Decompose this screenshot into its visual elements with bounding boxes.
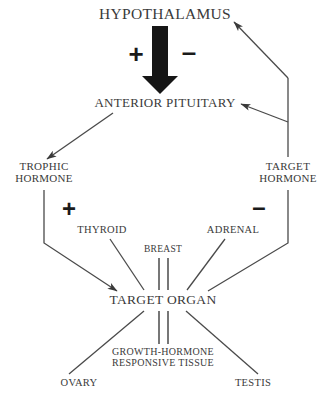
connector-target-organ-to-target-hormone bbox=[208, 190, 288, 291]
minus-sign-target-hormone-inhibition: – bbox=[252, 195, 265, 219]
node-label-adrenal: ADRENAL bbox=[207, 224, 259, 235]
diagram-canvas bbox=[0, 0, 325, 399]
node-label-anterior-pituitary: ANTERIOR PITUITARY bbox=[94, 96, 235, 110]
endocrine-feedback-diagram: HYPOTHALAMUS ANTERIOR PITUITARY TROPHIC … bbox=[0, 0, 325, 399]
node-label-target-hormone: TARGET HORMONE bbox=[259, 161, 317, 185]
connector-trophic-to-target-organ bbox=[44, 190, 117, 291]
connector-breast-to-target-organ bbox=[159, 258, 168, 290]
connector-target-hormone-to-hypothalamus bbox=[234, 22, 288, 78]
minus-sign-hypothalamus-inhibition: – bbox=[182, 39, 196, 65]
connector-target-organ-to-ghrt bbox=[159, 311, 168, 344]
node-label-ovary: OVARY bbox=[61, 377, 98, 388]
connector-thyroid-to-target-organ bbox=[110, 239, 144, 290]
connector-pituitary-to-trophic bbox=[47, 113, 113, 159]
connector-hypothalamus-to-pituitary bbox=[142, 26, 178, 94]
node-label-testis: TESTIS bbox=[235, 377, 271, 388]
connector-target-hormone-to-pituitary bbox=[241, 104, 288, 122]
connector-adrenal-to-target-organ bbox=[187, 239, 225, 290]
node-label-target-organ: TARGET ORGAN bbox=[110, 293, 217, 308]
node-label-breast: BREAST bbox=[144, 244, 182, 254]
node-label-hypothalamus: HYPOTHALAMUS bbox=[99, 6, 231, 23]
node-label-thyroid: THYROID bbox=[77, 224, 126, 235]
plus-sign-trophic-hormone-stimulation: + bbox=[62, 197, 76, 221]
node-label-trophic-hormone: TROPHIC HORMONE bbox=[15, 161, 73, 185]
plus-sign-hypothalamus-stimulation: + bbox=[128, 41, 143, 67]
node-label-growth-hormone-responsive-tissue: GROWTH-HORMONE RESPONSIVE TISSUE bbox=[112, 347, 214, 369]
